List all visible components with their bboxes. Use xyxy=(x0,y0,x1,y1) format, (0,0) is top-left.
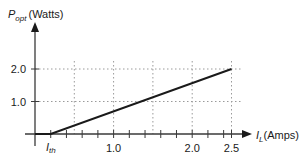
laser-output-chart: 1.02.02.5 1.02.0 Popt(Watts) IL(Amps) It… xyxy=(0,0,303,159)
x-tick-label: 2.0 xyxy=(185,142,200,154)
y-tick-labels: 1.02.0 xyxy=(11,63,26,108)
y-tick-label: 1.0 xyxy=(11,96,26,108)
x-tick-label: 1.0 xyxy=(106,142,121,154)
axes xyxy=(25,30,245,146)
y-axis-title: Popt(Watts) xyxy=(8,8,64,23)
x-axis-arrow-icon xyxy=(242,130,252,138)
gridlines xyxy=(35,61,242,134)
y-tick-label: 2.0 xyxy=(11,63,26,75)
y-axis-arrow-icon xyxy=(31,22,39,32)
x-tick-labels: 1.02.02.5 xyxy=(106,142,239,154)
threshold-label: Ith xyxy=(46,141,56,155)
x-tick-label: 2.5 xyxy=(224,142,239,154)
x-axis-title: IL(Amps) xyxy=(256,129,299,144)
